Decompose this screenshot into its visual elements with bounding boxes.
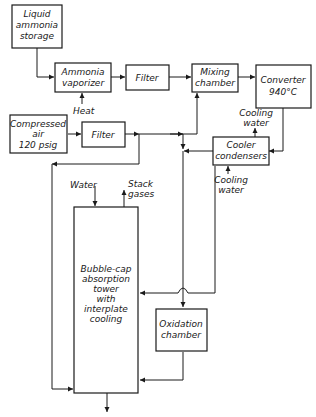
node-storage-line-2: storage bbox=[20, 31, 55, 41]
node-tower-line-2: tower bbox=[93, 284, 120, 294]
node-converter-line-0: Converter bbox=[261, 75, 307, 85]
edge-junction-mixing bbox=[139, 93, 197, 134]
label-cooling-water-bottom-0: Cooling bbox=[214, 175, 248, 185]
label-stack-gases-0: Stack bbox=[128, 179, 154, 189]
node-tower-line-4: interplate bbox=[84, 304, 128, 314]
node-filter-2: Filter bbox=[82, 122, 125, 147]
node-oxidation-chamber: Oxidation chamber bbox=[156, 309, 207, 351]
label-cooling-water-bottom-1: water bbox=[218, 185, 245, 195]
node-vaporizer-line-0: Ammonia bbox=[61, 67, 105, 77]
node-tower-line-3: with bbox=[96, 294, 115, 304]
node-filter-1: Filter bbox=[126, 65, 169, 90]
label-heat: Heat bbox=[73, 106, 95, 116]
node-filter-2-line-0: Filter bbox=[92, 130, 116, 140]
label-cooling-water-top-1: water bbox=[243, 118, 270, 128]
node-vaporizer-line-1: vaporizer bbox=[62, 78, 106, 88]
node-absorption-tower: Bubble-cap absorption tower with interpl… bbox=[74, 207, 138, 393]
node-storage-line-1: ammonia bbox=[16, 20, 58, 30]
node-compressed-air: Compressed air 120 psig bbox=[10, 115, 67, 153]
label-cooling-water-top-0: Cooling bbox=[239, 108, 273, 118]
node-storage: Liquid ammonia storage bbox=[12, 5, 62, 48]
node-tower-line-5: cooling bbox=[90, 314, 123, 324]
node-cooler-condensers: Cooler condensers bbox=[213, 137, 269, 165]
node-air-line-2: 120 psig bbox=[19, 140, 58, 150]
node-tower-line-0: Bubble-cap bbox=[81, 264, 132, 274]
label-water: Water bbox=[70, 180, 98, 190]
node-oxidation-line-0: Oxidation bbox=[159, 319, 203, 329]
node-vaporizer: Ammonia vaporizer bbox=[55, 63, 111, 92]
edge-left-bus-tower bbox=[52, 164, 73, 389]
node-oxidation-line-1: chamber bbox=[161, 330, 202, 340]
node-converter-line-1: 940°C bbox=[269, 87, 298, 97]
node-mixing-line-0: Mixing bbox=[200, 67, 230, 77]
process-flow-diagram: Liquid ammonia storage Ammonia vaporizer… bbox=[0, 0, 316, 417]
label-stack-gases-1: gases bbox=[128, 189, 154, 199]
node-mixing-line-1: chamber bbox=[195, 78, 236, 88]
node-air-line-0: Compressed bbox=[10, 119, 66, 129]
node-cooler-line-1: condensers bbox=[215, 151, 267, 161]
node-filter-1-line-0: Filter bbox=[136, 73, 160, 83]
node-mixing-chamber: Mixing chamber bbox=[192, 64, 238, 92]
edge-storage-vaporizer bbox=[37, 48, 54, 77]
edge-oxidation-tower bbox=[140, 352, 183, 380]
node-cooler-line-0: Cooler bbox=[226, 140, 256, 150]
node-storage-line-0: Liquid bbox=[23, 9, 50, 19]
node-air-line-1: air bbox=[32, 129, 45, 139]
node-tower-line-1: absorption bbox=[82, 274, 130, 284]
node-converter: Converter 940°C bbox=[256, 65, 311, 108]
